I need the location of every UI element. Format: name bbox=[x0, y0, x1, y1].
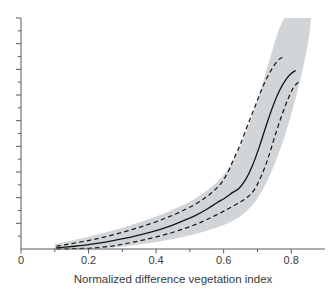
x-axis-title: Normalized difference vegetation index bbox=[74, 273, 273, 285]
chart-figure: 0 0.2 0.4 0.6 0.8 Normalized difference … bbox=[0, 0, 336, 292]
x-tick-label-0-6: 0.6 bbox=[216, 254, 231, 266]
ndvi-chart: 0 0.2 0.4 0.6 0.8 Normalized difference … bbox=[0, 0, 336, 292]
x-tick-label-0-2: 0.2 bbox=[81, 254, 96, 266]
x-tick-label-0: 0 bbox=[18, 254, 24, 266]
x-tick-label-0-8: 0.8 bbox=[284, 254, 299, 266]
x-tick-label-0-4: 0.4 bbox=[148, 254, 163, 266]
